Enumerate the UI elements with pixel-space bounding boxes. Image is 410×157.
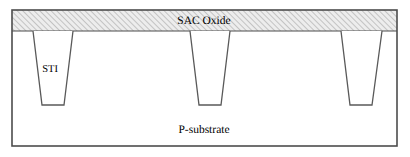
sac-oxide-label: SAC Oxide [177,15,230,27]
diagram-canvas: SAC Oxide STI P-substrate [0,0,410,157]
p-substrate-label: P-substrate [178,124,229,136]
sti-cross-section-figure: SAC Oxide STI P-substrate [0,0,410,157]
sti-label: STI [42,64,58,75]
